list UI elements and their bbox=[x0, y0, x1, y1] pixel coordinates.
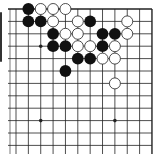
white-stone[interactable] bbox=[35, 4, 46, 15]
hoshi-point bbox=[39, 119, 43, 123]
hoshi-point bbox=[113, 119, 117, 123]
white-stone[interactable] bbox=[122, 28, 133, 39]
white-stone[interactable] bbox=[48, 4, 59, 15]
black-stone[interactable] bbox=[97, 40, 109, 52]
black-stone[interactable] bbox=[97, 28, 109, 40]
hoshi-point bbox=[39, 44, 43, 48]
go-board[interactable] bbox=[0, 0, 157, 154]
black-stone[interactable] bbox=[22, 3, 34, 15]
white-stone[interactable] bbox=[60, 4, 71, 15]
black-stone[interactable] bbox=[84, 53, 96, 65]
white-stone[interactable] bbox=[72, 41, 83, 52]
white-stone[interactable] bbox=[72, 28, 83, 39]
white-stone[interactable] bbox=[109, 78, 120, 89]
white-stone[interactable] bbox=[109, 53, 120, 64]
black-stone[interactable] bbox=[47, 40, 59, 52]
black-stone[interactable] bbox=[35, 16, 47, 28]
white-stone[interactable] bbox=[48, 16, 59, 27]
black-stone[interactable] bbox=[47, 28, 59, 40]
white-stone[interactable] bbox=[85, 41, 96, 52]
white-stone[interactable] bbox=[97, 53, 108, 64]
white-stone[interactable] bbox=[122, 16, 133, 27]
black-stone[interactable] bbox=[60, 65, 72, 77]
white-stone[interactable] bbox=[72, 16, 83, 27]
black-stone[interactable] bbox=[60, 40, 72, 52]
black-stone[interactable] bbox=[22, 16, 34, 28]
white-stone[interactable] bbox=[109, 41, 120, 52]
black-stone[interactable] bbox=[109, 28, 121, 40]
white-stone[interactable] bbox=[60, 28, 71, 39]
black-stone[interactable] bbox=[84, 16, 96, 28]
black-stone[interactable] bbox=[72, 53, 84, 65]
